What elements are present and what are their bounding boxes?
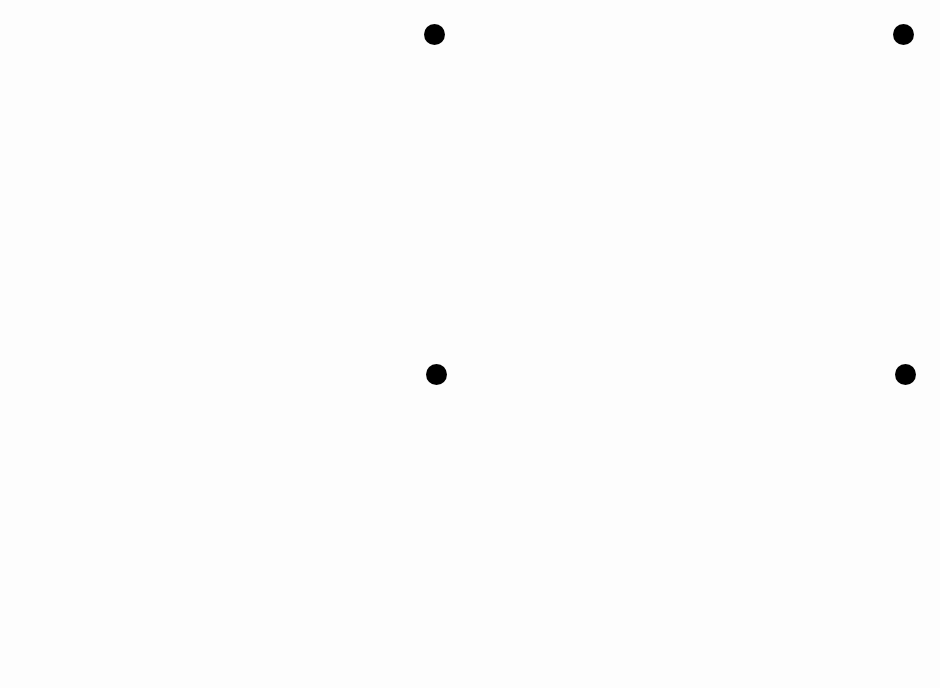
registration-dot-top-right [893, 24, 914, 45]
registration-dot-bottom-right [895, 364, 916, 385]
registration-dot-top-left [424, 24, 445, 45]
registration-dot-bottom-left [426, 364, 447, 385]
blank-page [0, 0, 940, 688]
